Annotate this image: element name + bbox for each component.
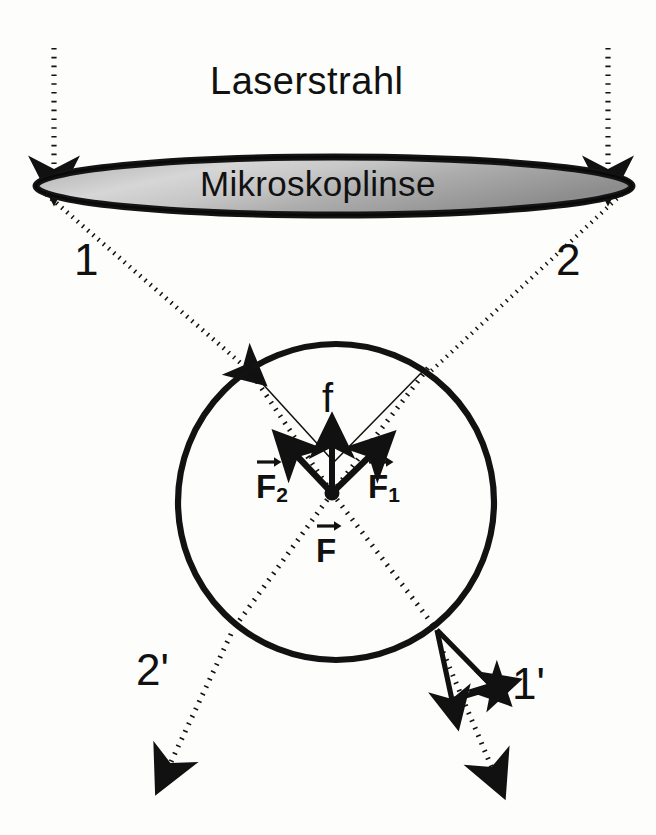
ray-label-2: 2 (556, 238, 580, 282)
vector-arrow-icon (256, 455, 282, 467)
sphere-centre-dot (325, 486, 340, 501)
force-label-F-net-text: F (316, 532, 336, 569)
optical-trap-diagram: Laserstrahl Mikroskoplinse 1 2 f F2 F1 (0, 0, 656, 835)
force-vectors (297, 446, 370, 501)
ray-label-2-prime: 2' (136, 648, 169, 692)
force-label-F2-sub: 2 (276, 483, 288, 506)
momentum-change-triangle (437, 630, 492, 700)
focal-length-label: f (322, 378, 333, 418)
force-vector-F1 (332, 456, 370, 493)
force-label-F2: F2 (256, 470, 288, 503)
force-label-F1: F1 (368, 470, 400, 503)
force-vector-F2 (297, 456, 332, 493)
force-label-F-net: F (316, 534, 336, 567)
ray-label-1: 1 (74, 238, 98, 282)
page-title: Laserstrahl (210, 62, 403, 100)
vector-arrow-icon (368, 455, 394, 467)
ray-label-1-prime: 1' (512, 662, 545, 706)
force-label-F2-text: F (256, 468, 276, 505)
force-label-F1-sub: 1 (388, 483, 400, 506)
refracted-ray-1 (248, 368, 492, 768)
focal-cone-lines (250, 370, 424, 462)
refracted-ray-2 (170, 368, 428, 764)
vector-arrow-icon (316, 519, 342, 531)
lens-label: Mikroskoplinse (200, 166, 436, 201)
force-label-F1-text: F (368, 468, 388, 505)
ray-2-incident (430, 194, 622, 372)
